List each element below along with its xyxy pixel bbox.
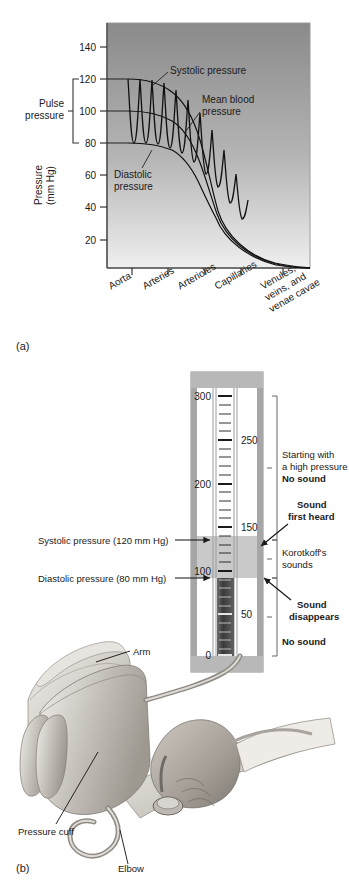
callout-no-sound-bottom: No sound [282,636,326,647]
annotation-mean-label-line2: pressure [202,106,241,117]
callout-diastolic-label: Diastolic pressure (80 mm Hg) [38,573,166,584]
manometer-label-50: 50 [241,609,253,620]
manometer-label-150: 150 [241,522,258,533]
y-axis-title-line2: (mm Hg) [45,166,56,205]
no-sound-top-bold: No sound [282,473,326,484]
panel-b-label: (b) [16,862,29,874]
callout-systolic-label: Systolic pressure (120 mm Hg) [38,535,168,546]
annotation-mean-label-line1: Mean blood [202,94,254,105]
figure-blood-pressure: 140 120 100 80 60 40 20 Pressure (mm Hg)… [0,0,349,889]
manometer-label-300: 300 [194,391,211,402]
manometer: 300 200 100 0 250 150 50 [191,372,263,672]
sound-first-heard-line1: Sound [297,499,327,510]
sound-disappears-line2: disappears [289,611,339,622]
no-sound-bottom-label: No sound [282,636,326,647]
sound-first-heard-line2: first heard [288,511,335,522]
y-tick-label-40: 40 [85,202,97,213]
manometer-label-200: 200 [194,479,211,490]
korotkoff-line1: Korotkoff's [282,547,327,558]
no-sound-top-line2: a high pressure [282,461,347,472]
stethoscope-chestpiece-inner [157,797,179,809]
y-axis-title-line1: Pressure [33,165,44,205]
pulse-pressure-label-line1: Pulse [39,98,64,109]
y-tick-label-120: 120 [79,74,96,85]
panel-a-label: (a) [16,340,29,352]
manometer-frame-left [191,372,197,672]
plot-area-background [107,23,310,268]
manometer-label-0: 0 [205,650,211,661]
korotkoff-line2: sounds [282,559,313,570]
annotation-diastolic-label-line1: Diastolic [114,169,152,180]
no-sound-top-line1: Starting with [282,449,334,460]
manometer-frame-right [257,372,263,672]
y-axis-title: Pressure (mm Hg) [33,165,56,205]
manometer-frame-top [191,372,263,388]
manometer-label-100: 100 [194,566,211,577]
label-elbow-text: Elbow [118,863,144,874]
y-tick-label-20: 20 [85,235,97,246]
sound-disappears-line1: Sound [297,599,327,610]
manometer-label-250: 250 [241,435,258,446]
y-tick-label-80: 80 [85,138,97,149]
pulse-pressure-label-line2: pressure [25,110,64,121]
annotation-systolic-label: Systolic pressure [170,65,247,76]
label-arm-text: Arm [133,646,151,657]
mercury-column [217,578,234,656]
y-tick-label-60: 60 [85,170,97,181]
label-pressure-cuff-text: Pressure cuff [18,826,74,837]
y-tick-label-100: 100 [79,106,96,117]
annotation-diastolic-label-line2: pressure [114,181,153,192]
y-tick-label-140: 140 [79,42,96,53]
